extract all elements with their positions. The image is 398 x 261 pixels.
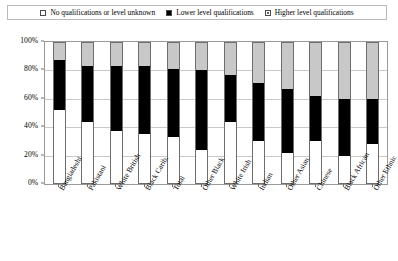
bar-segment-no-qualifications[interactable] xyxy=(53,110,66,184)
x-axis-tick: Chinese xyxy=(308,184,321,261)
bar-segment-higher-level[interactable] xyxy=(53,42,66,60)
bar-stack[interactable] xyxy=(81,42,94,184)
x-axis-tick: Bangladeshi xyxy=(52,184,65,261)
bar-stack[interactable] xyxy=(53,42,66,184)
x-axis-tick: Indian xyxy=(251,184,264,261)
bar-segment-higher-level[interactable] xyxy=(366,42,379,99)
bar-segment-higher-level[interactable] xyxy=(252,42,265,83)
y-axis: 0%20%40%60%80%100% xyxy=(0,41,41,183)
y-axis-tick-label: 0% xyxy=(28,179,38,187)
bar-stack[interactable] xyxy=(366,42,379,184)
x-axis-tick: Black African xyxy=(337,184,350,261)
filled-square-icon xyxy=(166,10,172,16)
bar-segment-higher-level[interactable] xyxy=(110,42,123,66)
x-axis-tick: Pakistani xyxy=(80,184,93,261)
x-axis-tick: Other Asian xyxy=(280,184,293,261)
bar-segment-higher-level[interactable] xyxy=(338,42,351,99)
bar-segment-higher-level[interactable] xyxy=(195,42,208,70)
bar-segment-higher-level[interactable] xyxy=(309,42,322,96)
bar-segment-higher-level[interactable] xyxy=(224,42,237,75)
bar-segment-lower-level[interactable] xyxy=(224,75,237,122)
bar-stack[interactable] xyxy=(338,42,351,184)
bar-stack[interactable] xyxy=(167,42,180,184)
chart-legend: No qualifications or level unknown Lower… xyxy=(7,5,387,20)
legend-item-no-qualifications: No qualifications or level unknown xyxy=(40,9,155,16)
bar-segment-higher-level[interactable] xyxy=(81,42,94,66)
bar-segment-lower-level[interactable] xyxy=(366,99,379,144)
x-axis-tick: Total xyxy=(166,184,179,261)
bar-stack[interactable] xyxy=(252,42,265,184)
bar-stack[interactable] xyxy=(138,42,151,184)
empty-square-icon xyxy=(40,10,46,16)
x-axis-tick: Other Black xyxy=(194,184,207,261)
bar-segment-higher-level[interactable] xyxy=(281,42,294,89)
y-axis-tick-label: 60% xyxy=(24,94,38,102)
chart-figure: No qualifications or level unknown Lower… xyxy=(0,0,398,261)
legend-label-higher-level: Higher level qualifications xyxy=(275,9,354,16)
bar-segment-lower-level[interactable] xyxy=(138,66,151,134)
legend-item-higher-level: Higher level qualifications xyxy=(265,9,354,16)
legend-label-no-qualifications: No qualifications or level unknown xyxy=(50,9,155,16)
x-axis-tick: White British xyxy=(109,184,122,261)
legend-label-lower-level: Lower level qualifications xyxy=(176,9,254,16)
bar-segment-higher-level[interactable] xyxy=(167,42,180,69)
bar-segment-lower-level[interactable] xyxy=(81,66,94,121)
bar-stack[interactable] xyxy=(110,42,123,184)
y-axis-tick-label: 20% xyxy=(24,151,38,159)
x-axis-tick: Black Carib. xyxy=(137,184,150,261)
y-axis-tick-label: 40% xyxy=(24,122,38,130)
bar-segment-lower-level[interactable] xyxy=(110,66,123,131)
bar-segment-higher-level[interactable] xyxy=(138,42,151,66)
x-axis-tick: Other Ethnic xyxy=(365,184,378,261)
bar-segment-lower-level[interactable] xyxy=(281,89,294,153)
bar-stack[interactable] xyxy=(224,42,237,184)
bar-stack[interactable] xyxy=(309,42,322,184)
gray-square-icon xyxy=(265,10,271,16)
bar-segment-lower-level[interactable] xyxy=(195,70,208,150)
x-axis: BangladeshiPakistaniWhite BritishBlack C… xyxy=(44,184,386,261)
bar-stack[interactable] xyxy=(281,42,294,184)
bar-segment-lower-level[interactable] xyxy=(167,69,180,137)
bar-segment-lower-level[interactable] xyxy=(53,60,66,110)
legend-item-lower-level: Lower level qualifications xyxy=(166,9,254,16)
bar-segment-lower-level[interactable] xyxy=(252,83,265,141)
y-axis-tick-label: 80% xyxy=(24,66,38,74)
bar-segment-lower-level[interactable] xyxy=(338,99,351,156)
bar-segment-lower-level[interactable] xyxy=(309,96,322,141)
bar-stack[interactable] xyxy=(195,42,208,184)
y-axis-tick-label: 100% xyxy=(20,37,38,45)
x-axis-tick: White Irish xyxy=(223,184,236,261)
